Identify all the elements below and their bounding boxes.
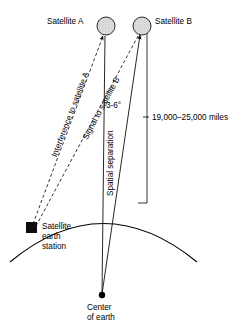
earth-surface-arc [10,224,197,263]
center-of-earth-label-line1: Center [87,303,112,313]
altitude-range-label: 19,000–25,000 miles [152,113,228,123]
satellite-a-icon [97,17,115,35]
altitude-bracket [138,33,147,203]
earth-station-icon [26,222,37,233]
earth-station-label-line1: Satellite [42,222,71,232]
satellite-a-label: Satellite A [47,17,83,27]
earth-station-label-line3: station [42,242,66,252]
radius-line-to-satellite-a [102,36,105,294]
center-of-earth-icon [99,292,105,298]
diagram-vector-layer [0,0,238,329]
satellite-geometry-diagram: Satellite A Satellite B Interference to … [0,0,238,329]
satellite-b-label: Satellite B [155,17,192,27]
satellite-b-icon [133,17,151,35]
earth-station-label-line2: earth [42,232,61,242]
center-of-earth-label-line2: of earth [87,313,115,323]
spatial-separation-label: Spatial separation [106,130,116,196]
separation-angle-label: 3-6° [106,101,121,111]
